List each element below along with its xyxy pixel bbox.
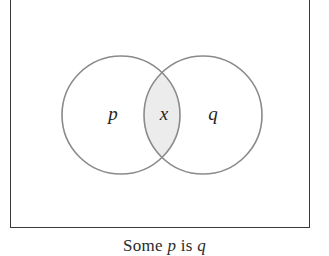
left-set-label: p — [106, 103, 118, 124]
venn-diagram-canvas: p x q — [0, 0, 329, 256]
caption-predicate: q — [197, 236, 206, 255]
venn-figure: p x q Some p is q — [0, 0, 329, 256]
figure-caption: Some p is q — [0, 236, 329, 256]
caption-subject: p — [167, 236, 176, 255]
intersection-label: x — [159, 103, 169, 124]
caption-prefix: Some — [123, 236, 167, 255]
caption-middle: is — [176, 236, 197, 255]
right-set-label: q — [208, 103, 218, 124]
